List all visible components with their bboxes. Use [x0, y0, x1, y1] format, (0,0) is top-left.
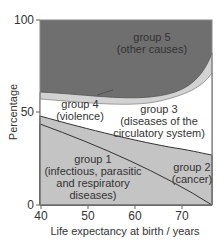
group5-label: group 5 — [133, 31, 170, 43]
group1-desc-3: diseases) — [69, 189, 116, 201]
x-tick-60: 60 — [128, 209, 142, 223]
group4-desc: (violence) — [56, 110, 104, 122]
group5-desc: (other causes) — [117, 43, 187, 55]
x-tick-40: 40 — [34, 209, 48, 223]
group2-desc: (cancer) — [172, 173, 212, 185]
y-axis-label: Percentage — [7, 84, 19, 140]
group3-desc-1: (diseases of the — [120, 115, 198, 127]
group3-label: group 3 — [140, 103, 177, 115]
group1-desc-2: and respiratory — [56, 177, 130, 189]
group1-label: group 1 — [74, 153, 111, 165]
y-tick-50: 50 — [21, 105, 35, 119]
group3-desc-2: circulatory system) — [113, 127, 205, 139]
y-tick-100: 100 — [14, 13, 34, 27]
group4-label: group 4 — [61, 98, 98, 110]
x-axis-label: Life expectancy at birth / years — [50, 225, 200, 237]
y-tick-0: 0 — [27, 198, 34, 212]
x-tick-70: 70 — [175, 209, 189, 223]
group2-label: group 2 — [173, 161, 210, 173]
x-tick-50: 50 — [81, 209, 95, 223]
group1-desc-1: (infectious, parasitic — [44, 165, 142, 177]
stacked-area-chart: 100 50 0 40 50 60 70 Life expectancy at … — [0, 0, 223, 249]
